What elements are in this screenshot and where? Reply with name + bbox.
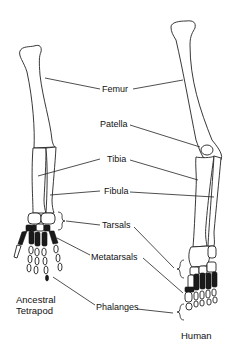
- tetrapod-limb: [14, 45, 62, 281]
- label-metatarsals: Metatarsals: [91, 252, 138, 262]
- tetrapod-tarsals: [26, 213, 55, 231]
- human-metatarsals: [185, 272, 217, 292]
- label-patella: Patella: [100, 119, 128, 129]
- caption-tetrapod-line1: Ancestral: [16, 294, 56, 305]
- caption-tetrapod-line2: Tetrapod: [16, 305, 53, 316]
- human-limb: [171, 21, 222, 310]
- human-femur: [171, 21, 222, 163]
- label-femur: Femur: [102, 84, 128, 94]
- label-tarsals: Tarsals: [102, 220, 131, 230]
- tetrapod-tibia: [32, 148, 46, 213]
- limb-diagram: Femur Patella Tibia Fibula Tarsals Metat…: [0, 0, 237, 353]
- tetrapod-metatarsals: [18, 231, 58, 246]
- tetrapod-fibula: [46, 147, 56, 213]
- tetrapod-femur: [20, 45, 55, 148]
- human-patella: [201, 145, 213, 155]
- human-phalanges: [185, 289, 217, 310]
- tetrapod-phalanges: [14, 245, 62, 281]
- label-tibia: Tibia: [107, 154, 126, 164]
- human-tarsals: [189, 246, 216, 275]
- caption-human: Human: [181, 330, 212, 341]
- label-phalanges: Phalanges: [96, 302, 139, 312]
- label-fibula: Fibula: [104, 186, 129, 196]
